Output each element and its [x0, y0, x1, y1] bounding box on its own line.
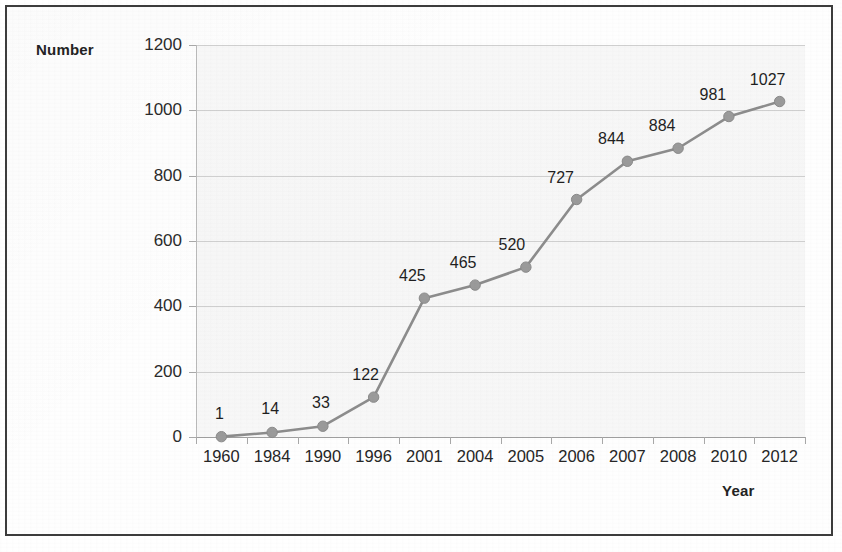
- gridline: [196, 45, 805, 46]
- y-axis-tick: [189, 110, 196, 111]
- x-axis-tick-label: 2001: [406, 447, 443, 466]
- y-axis-tick-label: 0: [173, 427, 182, 447]
- y-axis-title: Number: [36, 41, 94, 58]
- x-axis-tick-label: 1960: [203, 447, 240, 466]
- data-point-label: 520: [499, 236, 526, 254]
- y-axis-tick-label: 600: [154, 231, 182, 251]
- x-axis-tick: [348, 437, 349, 444]
- x-axis-tick-label: 2004: [457, 447, 494, 466]
- x-axis-tick: [298, 437, 299, 444]
- x-axis-tick-label: 1984: [254, 447, 291, 466]
- y-axis-tick-label: 200: [154, 362, 182, 382]
- x-axis-tick: [196, 437, 197, 444]
- data-point-label: 122: [352, 366, 379, 384]
- y-axis-tick-label: 800: [154, 166, 182, 186]
- y-axis-tick-labels: 020040060080010001200: [120, 0, 182, 552]
- x-axis-tick: [501, 437, 502, 444]
- x-axis-tick-label: 2007: [609, 447, 646, 466]
- gridline: [196, 176, 805, 177]
- y-axis-tick: [189, 372, 196, 373]
- y-axis-tick: [189, 306, 196, 307]
- x-axis-tick: [805, 437, 806, 444]
- data-point-label: 981: [700, 86, 727, 104]
- x-axis-tick-label: 2010: [711, 447, 748, 466]
- gridline: [196, 110, 805, 111]
- gridline: [196, 306, 805, 307]
- y-axis-tick-label: 1200: [144, 35, 182, 55]
- x-axis-tick: [754, 437, 755, 444]
- data-point-label: 1027: [750, 71, 786, 89]
- gridline: [196, 372, 805, 373]
- x-axis-tick: [551, 437, 552, 444]
- data-point-label: 465: [450, 254, 477, 272]
- x-axis-tick: [602, 437, 603, 444]
- data-point-label: 14: [261, 400, 279, 418]
- x-axis-tick-label: 1990: [305, 447, 342, 466]
- data-point-label: 844: [598, 130, 625, 148]
- data-point-label: 884: [649, 117, 676, 135]
- data-point-label: 727: [547, 169, 574, 187]
- y-axis-tick-label: 400: [154, 296, 182, 316]
- x-axis-tick: [704, 437, 705, 444]
- x-axis-tick: [247, 437, 248, 444]
- x-axis-tick: [653, 437, 654, 444]
- x-axis-tick: [399, 437, 400, 444]
- data-point-label: 33: [312, 394, 330, 412]
- y-axis-tick: [189, 437, 196, 438]
- y-axis-tick: [189, 241, 196, 242]
- x-axis-tick: [450, 437, 451, 444]
- data-point-label: 425: [399, 267, 426, 285]
- x-axis-tick-label: 1996: [355, 447, 392, 466]
- data-point-label: 1: [215, 405, 224, 423]
- y-axis-tick: [189, 45, 196, 46]
- y-axis-line: [196, 45, 197, 438]
- y-axis-tick-label: 1000: [144, 100, 182, 120]
- x-axis-tick-label: 2008: [660, 447, 697, 466]
- x-axis-tick-label: 2005: [508, 447, 545, 466]
- y-axis-tick: [189, 176, 196, 177]
- x-axis-tick-label: 2006: [558, 447, 595, 466]
- x-axis-tick-label: 2012: [761, 447, 798, 466]
- x-axis-title: Year: [722, 482, 755, 499]
